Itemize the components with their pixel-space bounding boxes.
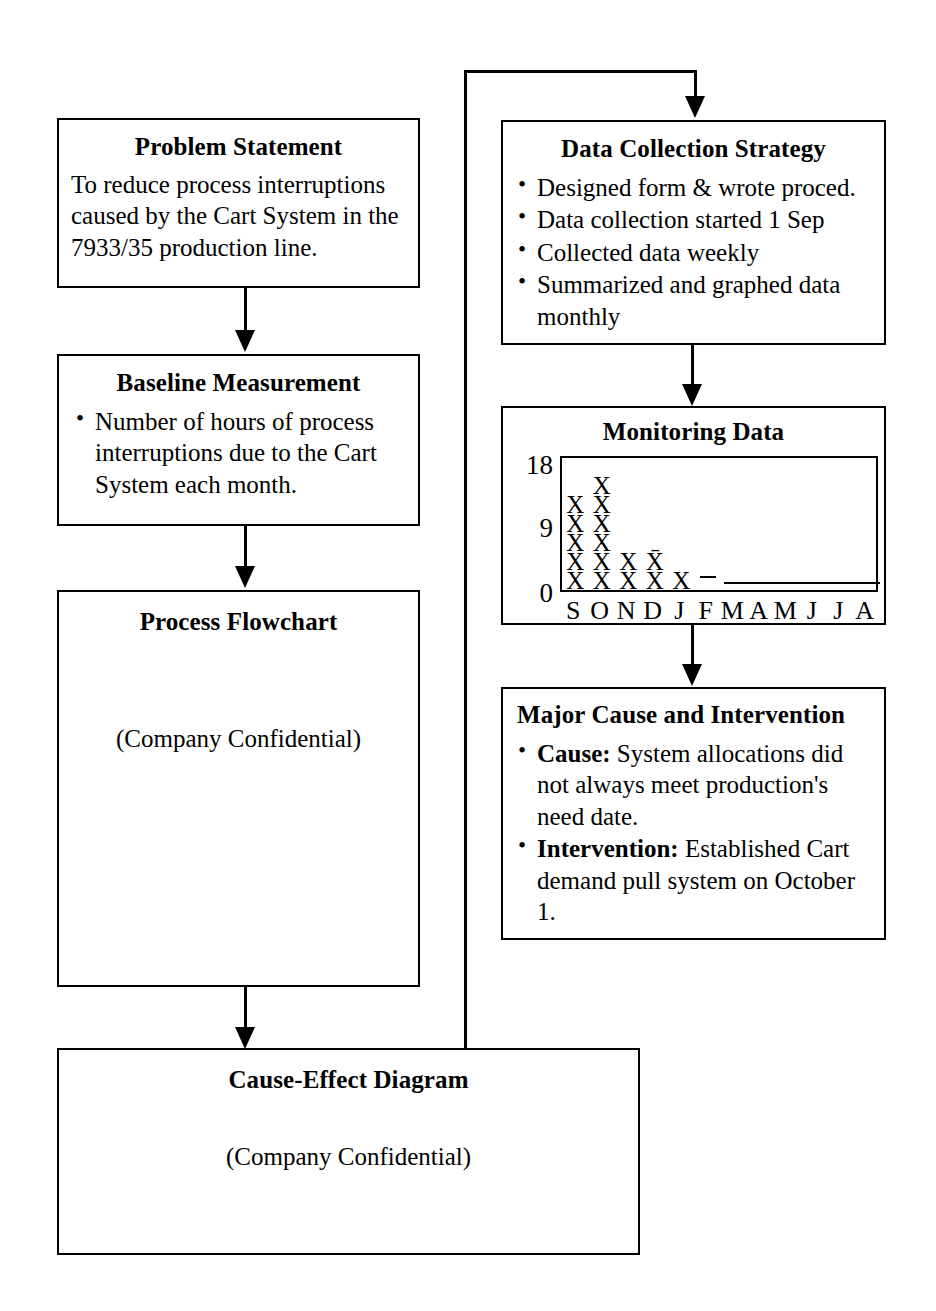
baseline-measurement-title: Baseline Measurement — [59, 369, 418, 398]
box-problem-statement: Problem Statement To reduce process inte… — [57, 118, 420, 288]
cause-effect-title: Cause-Effect Diagram — [59, 1066, 638, 1095]
data-stack: XXXXX — [566, 495, 584, 590]
y-tick-18: 18 — [507, 452, 553, 479]
connector-problem-to-baseline — [244, 288, 247, 336]
box-data-collection-strategy: Data Collection Strategy Designed form &… — [501, 120, 886, 345]
data-stack: X — [672, 571, 690, 590]
intervention-label: Intervention: — [537, 835, 679, 862]
problem-statement-title: Problem Statement — [59, 133, 418, 162]
process-flowchart-note: (Company Confidential) — [59, 725, 418, 753]
problem-statement-body: To reduce process interruptions caused b… — [71, 169, 404, 264]
x-axis-label: D — [643, 598, 662, 624]
zero-baseline-rule — [724, 582, 880, 585]
arrowhead-flowchart — [235, 566, 255, 588]
x-axis-label: J — [833, 598, 843, 624]
data-marker: X — [646, 571, 664, 590]
list-item: Data collection started 1 Sep — [515, 204, 872, 236]
data-marker: X — [672, 571, 690, 590]
data-collection-list: Designed form & wrote proced. Data colle… — [515, 172, 872, 333]
list-item: Collected data weekly — [515, 237, 872, 269]
x-axis-label: M — [774, 598, 797, 624]
major-cause-title: Major Cause and Intervention — [517, 701, 884, 730]
feedback-loop-vertical-left — [464, 70, 467, 1050]
x-axis-label: F — [699, 598, 713, 624]
flowchart-page: Problem Statement To reduce process inte… — [0, 0, 936, 1311]
data-stack: X̄X — [646, 552, 664, 590]
data-collection-title: Data Collection Strategy — [503, 135, 884, 164]
y-tick-9: 9 — [507, 515, 553, 542]
x-axis-label: S — [566, 598, 580, 624]
process-flowchart-title: Process Flowchart — [59, 608, 418, 637]
data-marker: X — [619, 571, 637, 590]
monitoring-chart: 18 9 0 XXXXXXXXXXXXXX̄XX SONDJFMAMJJA — [503, 452, 884, 622]
x-axis-label: J — [807, 598, 817, 624]
y-tick-0: 0 — [507, 580, 553, 607]
feedback-loop-horizontal-top — [464, 70, 697, 73]
box-cause-effect-diagram: Cause-Effect Diagram (Company Confidenti… — [57, 1048, 640, 1255]
x-axis-label: A — [855, 598, 874, 624]
list-item: Intervention: Established Cart demand pu… — [515, 833, 870, 928]
list-item: Summarized and graphed data monthly — [515, 269, 872, 332]
data-stacks: XXXXXXXXXXXXXX̄XX — [562, 458, 876, 590]
list-item: Number of hours of process interruptions… — [73, 406, 404, 501]
arrowhead-data-collection — [685, 96, 705, 118]
list-item: Designed form & wrote proced. — [515, 172, 872, 204]
box-process-flowchart: Process Flowchart (Company Confidential) — [57, 590, 420, 987]
plot-frame: XXXXXXXXXXXXXX̄XX — [560, 456, 878, 592]
cause-effect-note: (Company Confidential) — [59, 1143, 638, 1171]
data-stack: XXXXXX — [593, 476, 611, 590]
x-axis-label: J — [674, 598, 684, 624]
arrowhead-major-cause — [682, 664, 702, 686]
x-axis-label: A — [749, 598, 768, 624]
monitoring-data-title: Monitoring Data — [503, 418, 884, 447]
x-axis-label: O — [590, 598, 609, 624]
major-cause-list: Cause: System allocations did not always… — [515, 738, 870, 928]
arrowhead-monitoring — [682, 384, 702, 406]
arrowhead-baseline — [235, 330, 255, 352]
box-monitoring-data: Monitoring Data 18 9 0 XXXXXXXXXXXXXX̄XX… — [501, 406, 886, 625]
cause-label: Cause: — [537, 740, 611, 767]
list-item: Cause: System allocations did not always… — [515, 738, 870, 833]
data-marker: X — [593, 571, 611, 590]
dash-marker — [700, 576, 716, 579]
data-stack: XX — [619, 552, 637, 590]
box-baseline-measurement: Baseline Measurement Number of hours of … — [57, 354, 420, 526]
baseline-measurement-list: Number of hours of process interruptions… — [73, 406, 404, 501]
x-axis-label: N — [617, 598, 636, 624]
data-marker: X — [566, 571, 584, 590]
box-major-cause-intervention: Major Cause and Intervention Cause: Syst… — [501, 687, 886, 940]
x-axis-label: M — [721, 598, 744, 624]
arrowhead-cause-effect — [235, 1027, 255, 1049]
